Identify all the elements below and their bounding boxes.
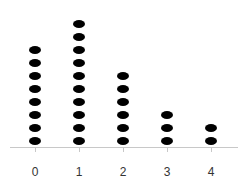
data-dot — [117, 111, 129, 119]
data-dot — [29, 59, 41, 67]
x-tick — [79, 148, 80, 152]
data-dot — [29, 46, 41, 54]
data-dot — [73, 137, 85, 145]
data-dot — [29, 124, 41, 132]
data-dot — [117, 72, 129, 80]
data-dot — [117, 124, 129, 132]
x-tick-label: 1 — [69, 165, 89, 179]
data-dot — [117, 98, 129, 106]
x-axis-line — [10, 147, 238, 148]
data-dot — [73, 33, 85, 41]
data-dot — [73, 20, 85, 28]
data-dot — [29, 72, 41, 80]
data-dot — [117, 137, 129, 145]
x-tick — [123, 148, 124, 152]
data-dot — [29, 137, 41, 145]
data-dot — [205, 124, 217, 132]
data-dot — [73, 98, 85, 106]
dot-plot: 01234 — [0, 0, 242, 189]
data-dot — [73, 72, 85, 80]
data-dot — [73, 85, 85, 93]
data-dot — [73, 111, 85, 119]
x-tick — [211, 148, 212, 152]
data-dot — [29, 85, 41, 93]
x-tick-label: 0 — [25, 165, 45, 179]
data-dot — [161, 137, 173, 145]
data-dot — [73, 46, 85, 54]
data-dot — [73, 124, 85, 132]
x-tick-label: 4 — [201, 165, 221, 179]
data-dot — [161, 124, 173, 132]
data-dot — [29, 98, 41, 106]
x-tick — [167, 148, 168, 152]
data-dot — [205, 137, 217, 145]
data-dot — [73, 59, 85, 67]
x-tick — [35, 148, 36, 152]
data-dot — [161, 111, 173, 119]
x-tick-label: 3 — [157, 165, 177, 179]
data-dot — [117, 85, 129, 93]
x-tick-label: 2 — [113, 165, 133, 179]
data-dot — [29, 111, 41, 119]
